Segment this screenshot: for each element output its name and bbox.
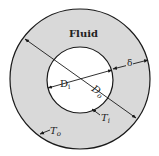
annulus-diagram: Fluid Di Do δ Ti To — [0, 0, 159, 156]
fluid-label: Fluid — [69, 28, 98, 39]
inner-cylinder-wall — [47, 47, 113, 113]
gap-label: δ — [127, 58, 132, 68]
